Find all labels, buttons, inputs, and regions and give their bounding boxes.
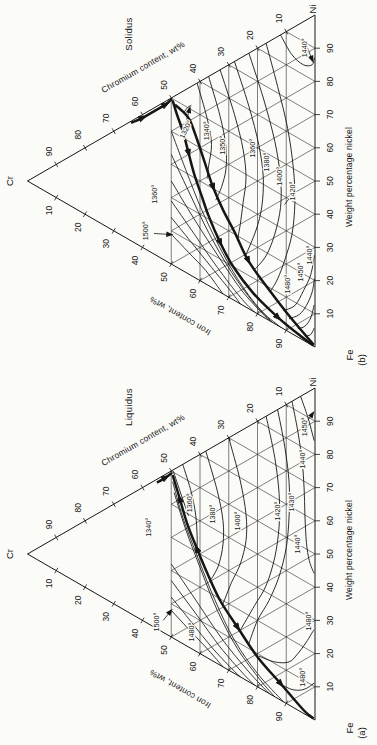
ni-tick-label-10: 10 xyxy=(325,309,335,319)
solidus-panel: 1020304050607080901020304050607080901020… xyxy=(0,0,377,372)
phase-diagram-figure: 1020304050607080901020304050607080901020… xyxy=(0,0,377,745)
panel-tag-label: (a) xyxy=(356,727,367,739)
panel-title: Liquidus xyxy=(123,388,134,426)
monovariant-arrow xyxy=(185,149,190,157)
fe-tick-label-80: 80 xyxy=(245,695,255,705)
isotherm-line-19 xyxy=(171,154,280,327)
fe-tick-label-50: 50 xyxy=(159,272,169,282)
cr-tick-label-20: 20 xyxy=(245,403,255,413)
isotherm-line-7 xyxy=(249,410,290,644)
isotherm-label-7: 1450° xyxy=(300,417,309,436)
isotherm-label-2: 1350° xyxy=(218,136,227,155)
fe-tick-40 xyxy=(141,245,144,251)
fe-tick-label-10: 10 xyxy=(44,206,54,216)
cr-axis-title: Chromium content, wt% xyxy=(100,412,187,468)
fe-tick-label-30: 30 xyxy=(101,612,111,622)
isotherm-line-12 xyxy=(289,279,314,319)
cr-tick-70 xyxy=(112,128,115,134)
cr-tick-label-30: 30 xyxy=(216,420,226,430)
fe-tick-30 xyxy=(112,228,115,234)
corner-label-ni: Ni xyxy=(307,378,318,387)
fe-tick-label-70: 70 xyxy=(216,678,226,688)
fe-tick-label-90: 90 xyxy=(274,711,284,721)
isotherm-label-0: 1340° xyxy=(144,518,153,537)
cr-tick-label-70: 70 xyxy=(101,113,111,123)
axis-ticks xyxy=(55,402,320,706)
grid-line-fe-40 xyxy=(171,521,315,604)
corner-labels: CrFeNi xyxy=(4,5,355,361)
ni-tick-label-60: 60 xyxy=(325,143,335,153)
cr-tick-80 xyxy=(83,518,86,524)
isotherm-label-8: 1360° xyxy=(150,185,159,204)
grid-line-fe-10 xyxy=(171,48,315,131)
isotherm-label-12: 1440° xyxy=(305,245,314,264)
ni-tick-label-50: 50 xyxy=(325,549,335,559)
corner-label-ni: Ni xyxy=(307,5,318,14)
ni-tick-label-40: 40 xyxy=(325,209,335,219)
corner-label-cr: Cr xyxy=(4,176,15,186)
fe-tick-label-60: 60 xyxy=(188,662,198,672)
ni-axis-title: Weight percentage nickel xyxy=(344,500,354,600)
ni-tick-label-90: 90 xyxy=(325,43,335,53)
panel-tag-label: (b) xyxy=(356,354,367,366)
cr-tick-60 xyxy=(141,485,144,491)
fe-tick-20 xyxy=(83,584,86,590)
fe-axis-title: Iron content, wt% xyxy=(147,667,212,710)
cr-tick-label-60: 60 xyxy=(130,97,140,107)
cr-tick-label-50: 50 xyxy=(159,453,169,463)
contour-lines xyxy=(157,396,314,718)
cr-axis-title: Chromium content, wt% xyxy=(100,39,187,95)
grid-line-ni-70 xyxy=(229,65,315,115)
cr-tick-label-80: 80 xyxy=(73,130,83,140)
isotherm-label-1: 1340° xyxy=(202,121,211,140)
fe-tick-label-50: 50 xyxy=(159,645,169,655)
fe-tick-label-20: 20 xyxy=(73,595,83,605)
fe-tick-40 xyxy=(141,618,144,624)
corner-label-fe: Fe xyxy=(344,722,355,733)
isotherm-label-9: 1480° xyxy=(304,612,313,631)
fe-tick-label-20: 20 xyxy=(73,222,83,232)
monovariant-arrow xyxy=(139,116,147,121)
corner-label-cr: Cr xyxy=(4,549,15,559)
grid-line-ni-10 xyxy=(171,604,315,687)
fe-tick-30 xyxy=(112,601,115,607)
isotherm-label-8: 1440° xyxy=(293,534,302,553)
solidus-plot: 1020304050607080901020304050607080901020… xyxy=(4,5,367,366)
isotherm-labels: 1340°1360°1380°1400°1420°1430°1440°1450°… xyxy=(144,411,315,687)
isotherm-label-11: 1450° xyxy=(296,262,305,281)
isotherm-label-3: 1400° xyxy=(233,512,242,531)
cr-tick-80 xyxy=(83,145,86,151)
isotherm-label-9: 1500° xyxy=(141,221,150,240)
cr-tick-label-10: 10 xyxy=(274,14,284,24)
ni-tick-label-80: 80 xyxy=(325,76,335,86)
axis-tick-labels: 1020304050607080901020304050607080901020… xyxy=(44,387,335,722)
panel-title: Solidus xyxy=(123,17,134,50)
isotherm-label-5: 1400° xyxy=(275,167,284,186)
grid-line-ni-10 xyxy=(171,231,315,314)
fe-tick-label-60: 60 xyxy=(188,289,198,299)
isotherm-label-12: 1500° xyxy=(152,613,161,632)
cr-tick-label-60: 60 xyxy=(130,470,140,480)
liquidus-plot: 1020304050607080901020304050607080901020… xyxy=(4,378,367,739)
fe-tick-label-90: 90 xyxy=(274,338,284,348)
fe-tick-20 xyxy=(83,211,86,217)
isotherm-line-13 xyxy=(171,597,240,677)
liquidus-panel: 1020304050607080901020304050607080901020… xyxy=(0,373,377,745)
cr-tick-label-90: 90 xyxy=(44,146,54,156)
cr-tick-label-70: 70 xyxy=(101,486,111,496)
isotherm-label-3: 1360° xyxy=(248,139,257,158)
isotherm-line-7 xyxy=(235,62,264,255)
isotherm-label-1: 1360° xyxy=(185,493,194,512)
ni-tick-label-60: 60 xyxy=(325,516,335,526)
cr-tick-label-30: 30 xyxy=(216,47,226,57)
ni-tick-label-50: 50 xyxy=(325,176,335,186)
cr-tick-90 xyxy=(55,162,58,168)
ni-tick-label-70: 70 xyxy=(325,110,335,120)
grid-line-ni-20 xyxy=(171,198,315,281)
fe-tick-10 xyxy=(55,195,58,201)
fe-tick-10 xyxy=(55,568,58,574)
cr-tick-label-80: 80 xyxy=(73,503,83,513)
liquidus-ternary-diagram: 1020304050607080901020304050607080901020… xyxy=(0,373,377,745)
ni-tick-label-70: 70 xyxy=(325,483,335,493)
isotherm-label-6: 1420° xyxy=(288,181,297,200)
